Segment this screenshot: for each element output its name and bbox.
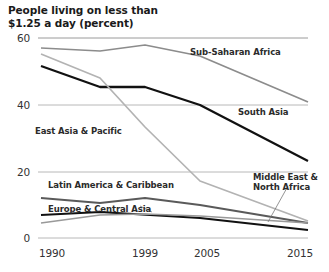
- y-tick-0: 0: [2, 232, 30, 244]
- chart-container: People living on less than $1.25 a day (…: [0, 0, 329, 272]
- series-label-middle-east-north-africa: Middle East & North Africa: [253, 173, 318, 192]
- x-tick-2005: 2005: [187, 247, 227, 259]
- series-label-south-asia: South Asia: [238, 108, 288, 118]
- series-label-east-asia-pacific: East Asia & Pacific: [35, 127, 122, 137]
- x-tick-2015: 2015: [280, 247, 320, 259]
- series-lines: [41, 45, 308, 230]
- y-tick-20: 20: [2, 166, 30, 178]
- series-label-sub-saharan-africa: Sub-Saharan Africa: [190, 48, 281, 58]
- y-tick-40: 40: [2, 99, 30, 111]
- y-tick-60: 60: [2, 32, 30, 44]
- x-tick-1990: 1990: [32, 247, 72, 259]
- series-label-europe-central-asia: Europe & Central Asia: [48, 205, 151, 215]
- x-tick-1999: 1999: [125, 247, 165, 259]
- series-label-latin-america-caribbean: Latin America & Caribbean: [48, 181, 174, 191]
